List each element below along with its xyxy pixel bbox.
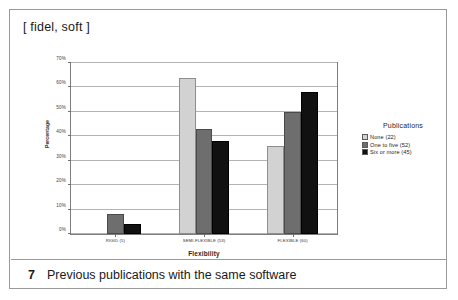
- chart-legend: Publications None (22)One to five (52)Si…: [362, 122, 444, 157]
- bar-group: FLEXIBLE (60): [248, 63, 337, 234]
- caption-text: Previous publications with the same soft…: [47, 268, 296, 282]
- bar: [301, 92, 318, 234]
- legend-swatch: [362, 149, 368, 155]
- legend-label: None (22): [370, 134, 396, 140]
- bar: [267, 146, 284, 234]
- figure-container: [ fidel, soft ] Percentage 0%10%20%30%40…: [9, 9, 447, 289]
- bar: [212, 141, 229, 234]
- x-tick-mark: [115, 234, 116, 237]
- x-tick-mark: [293, 234, 294, 237]
- y-axis-title: Percentage: [44, 120, 50, 148]
- bar-group: RIGID (5): [71, 63, 160, 234]
- x-tick-label: FLEXIBLE (60): [278, 238, 308, 243]
- y-tick-label: 50%: [56, 104, 66, 109]
- legend-label: Six or more (45): [370, 149, 412, 155]
- y-tick-label: 60%: [56, 80, 66, 85]
- y-tick-label: 20%: [56, 178, 66, 183]
- legend-label: One to five (52): [370, 142, 410, 148]
- x-tick-mark: [204, 234, 205, 237]
- y-tick-label: 10%: [56, 202, 66, 207]
- bar: [196, 129, 213, 234]
- figure-caption: 7 Previous publications with the same so…: [28, 268, 436, 282]
- legend-items: None (22)One to five (52)Six or more (45…: [362, 134, 444, 155]
- chart-area: Percentage 0%10%20%30%40%50%60%70% RIGID…: [10, 10, 446, 254]
- caption-divider: [11, 259, 447, 260]
- y-tick-label: 0%: [59, 227, 66, 232]
- bar: [284, 112, 301, 234]
- legend-item: Six or more (45): [362, 149, 444, 155]
- plot-frame: 0%10%20%30%40%50%60%70% RIGID (5)SEMI-FL…: [70, 62, 338, 235]
- x-tick-label: SEMI-FLEXIBLE (53): [183, 238, 226, 243]
- legend-item: None (22): [362, 134, 444, 140]
- bar: [124, 224, 141, 234]
- bar: [107, 214, 124, 234]
- y-tick-label: 30%: [56, 153, 66, 158]
- x-axis-title: Flexibility: [70, 250, 338, 257]
- caption-number: 7: [28, 268, 35, 282]
- legend-title: Publications: [362, 122, 444, 129]
- bar-group: SEMI-FLEXIBLE (53): [160, 63, 249, 234]
- legend-swatch: [362, 134, 368, 140]
- legend-swatch: [362, 142, 368, 148]
- bar: [179, 78, 196, 234]
- x-tick-label: RIGID (5): [106, 238, 125, 243]
- y-tick-label: 70%: [56, 56, 66, 61]
- y-tick-label: 40%: [56, 129, 66, 134]
- legend-item: One to five (52): [362, 142, 444, 148]
